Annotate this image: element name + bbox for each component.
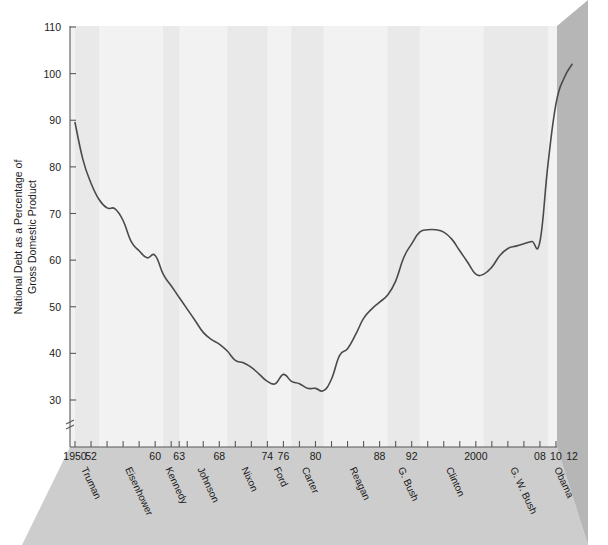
x-tick-label-1963: 63: [173, 450, 185, 462]
x-tick-label-2008: 08: [534, 450, 546, 462]
term-band-g-bush: [388, 26, 420, 447]
y-axis-title-line2: Gross Domestic Product: [26, 180, 38, 294]
chart-figure: 30405060708090100110 1950526063687476808…: [0, 0, 608, 545]
x-tick-label-1980: 80: [310, 450, 322, 462]
y-axis-title: National Debt as a Percentage of Gross D…: [12, 160, 38, 315]
x-tick-label-1976: 76: [278, 450, 290, 462]
term-band-carter: [291, 26, 323, 447]
x-tick-label-2000: 2000: [464, 450, 488, 462]
x-tick-label-2010: 10: [550, 450, 562, 462]
y-tick-label-50: 50: [49, 301, 61, 313]
x-tick-label-1974: 74: [262, 450, 274, 462]
chart-floor-panel: [22, 447, 588, 545]
x-tick-label-1950: 1950: [63, 450, 87, 462]
y-tick-label-100: 100: [43, 68, 61, 80]
x-tick-label-1968: 68: [213, 450, 225, 462]
y-tick-label-80: 80: [49, 161, 61, 173]
y-axis-title-line1: National Debt as a Percentage of: [12, 160, 24, 315]
x-tick-label-1960: 60: [149, 450, 161, 462]
national-debt-line-chart: 30405060708090100110 1950526063687476808…: [0, 0, 608, 545]
term-band-g-w-bush: [484, 26, 548, 447]
y-tick-label-40: 40: [49, 347, 61, 359]
term-band-truman: [75, 26, 99, 447]
y-tick-label-90: 90: [49, 114, 61, 126]
y-tick-label-110: 110: [44, 21, 61, 33]
x-tick-label-1992: 92: [406, 450, 418, 462]
y-tick-label-60: 60: [49, 254, 61, 266]
x-tick-label-1952: 52: [85, 450, 97, 462]
x-tick-label-1988: 88: [374, 450, 386, 462]
term-band-nixon: [227, 26, 267, 447]
y-tick-label-70: 70: [49, 208, 61, 220]
term-band-kennedy: [163, 26, 179, 447]
x-tick-label-2012: 12: [566, 450, 578, 462]
y-tick-label-30: 30: [49, 394, 61, 406]
